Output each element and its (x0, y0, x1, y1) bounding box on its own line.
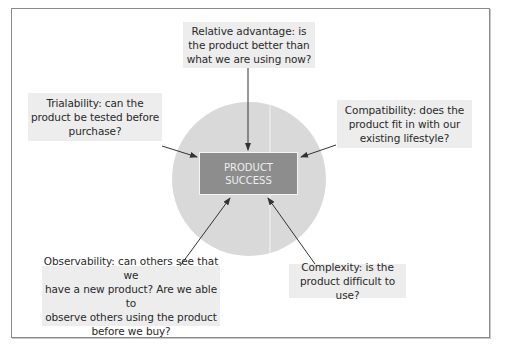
factor-text-line: observe others using the product (42, 310, 220, 324)
factor-text-line: purchase? (31, 124, 159, 138)
factor-observability: Observability: can others see that we ha… (42, 266, 220, 326)
factor-compatibility: Compatibility: does the product fit in w… (337, 100, 472, 148)
factor-complexity: Complexity: is the product difficult to … (289, 264, 406, 298)
factor-text-line: existing lifestyle? (345, 131, 464, 145)
factor-text-line: before we buy? (42, 324, 220, 338)
factor-text-line: Complexity: is the (289, 260, 406, 274)
factor-text-line: Compatibility: does the (345, 103, 464, 117)
factor-relative-advantage: Relative advantage: is the product bette… (183, 22, 315, 68)
center-label-line2: SUCCESS (225, 175, 272, 186)
factor-text-line: what we are using now? (187, 52, 312, 66)
factor-text-line: product be tested before (31, 110, 159, 124)
factor-text-line: Relative advantage: is (187, 24, 312, 38)
product-success-box: PRODUCT SUCCESS (199, 152, 298, 195)
factor-text-line: product difficult to use? (289, 274, 406, 302)
factor-text-line: product fit in with our (345, 117, 464, 131)
center-label-line1: PRODUCT (224, 162, 273, 173)
factor-text-line: Trialability: can the (31, 96, 159, 110)
factor-text-line: have a new product? Are we able to (42, 282, 220, 310)
factor-trialability: Trialability: can the product be tested … (28, 93, 162, 141)
factor-text-line: the product better than (187, 38, 312, 52)
factor-text-line: Observability: can others see that we (42, 254, 220, 282)
